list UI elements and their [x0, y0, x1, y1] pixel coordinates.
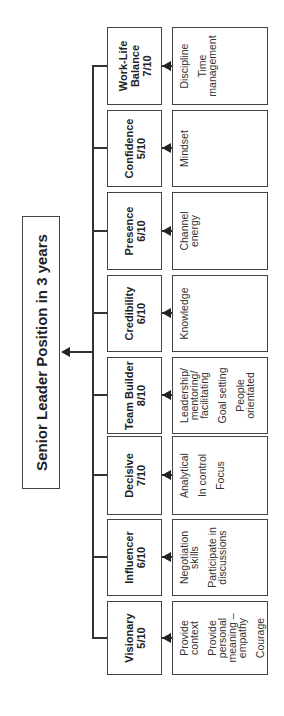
header-name: Work-Life Balance — [117, 41, 141, 92]
detail-box-presence: Channel energy — [172, 192, 268, 270]
detail-item: Provide context — [179, 620, 199, 656]
diagram-stage: Senior Leader Position in 3 years Vision… — [0, 0, 284, 716]
detail-box-influencer: Negotiation skillsParticipate in discuss… — [172, 519, 268, 596]
header-name: Presence — [123, 207, 135, 256]
header-box-presence: Presence6/10 — [107, 192, 162, 270]
detail-item: People orientated — [235, 372, 255, 419]
header-score: 6/10 — [135, 303, 147, 324]
arrowhead-up-icon — [162, 226, 171, 236]
detail-item: Mindset — [179, 130, 189, 167]
detail-box-work-life-balance: DisciplineTime management — [172, 27, 268, 105]
detail-item: Focus — [215, 461, 225, 490]
detail-item: Goal setting — [217, 367, 227, 423]
arrowhead-up-icon — [162, 391, 171, 401]
header-box-confidence: Confidence5/10 — [107, 110, 162, 187]
spine-stub-visionary — [93, 637, 107, 639]
detail-item: Negotiation skills — [179, 531, 199, 584]
header-box-influencer: Influencer6/10 — [107, 519, 162, 596]
detail-item: In control — [197, 454, 207, 497]
detail-box-credibility: Knowledge — [172, 275, 268, 352]
header-score: 7/10 — [135, 465, 147, 486]
header-name: Influencer — [123, 531, 135, 584]
detail-item: Channel energy — [179, 211, 199, 250]
arrowhead-up-icon — [162, 471, 171, 481]
header-score: 6/10 — [135, 547, 147, 568]
spine-stub-credibility — [93, 313, 107, 315]
header-score: 5/10 — [135, 627, 147, 648]
detail-box-team-builder: Leadership/ mentoring/ facilitatingGoal … — [172, 357, 268, 434]
detail-item: Provide personal meaning – empathy — [207, 613, 247, 662]
header-score: 5/10 — [135, 138, 147, 159]
detail-box-decisive: AnalyticalIn controlFocus — [172, 436, 268, 515]
spine-stub-decisive — [93, 475, 107, 477]
detail-item: Analytical — [179, 453, 189, 498]
header-box-decisive: Decisive7/10 — [107, 436, 162, 515]
spine-stub-presence — [93, 230, 107, 232]
goal-title: Senior Leader Position in 3 years — [33, 234, 50, 471]
detail-box-confidence: Mindset — [172, 110, 268, 187]
header-name: Credibility — [123, 287, 135, 341]
spine-stub-team-builder — [93, 395, 107, 397]
detail-item: Knowledge — [179, 288, 189, 340]
header-score: 6/10 — [135, 220, 147, 241]
header-box-team-builder: Team Builder8/10 — [107, 357, 162, 434]
spine-line — [92, 65, 94, 639]
arrowhead-up-icon — [162, 553, 171, 563]
arrowhead-up-icon — [162, 633, 171, 643]
header-box-credibility: Credibility6/10 — [107, 275, 162, 352]
detail-item: Courage — [255, 618, 265, 658]
title-connector-line — [68, 351, 93, 353]
header-name: Decisive — [123, 453, 135, 498]
arrowhead-up-icon — [162, 61, 171, 71]
goal-title-box: Senior Leader Position in 3 years — [22, 216, 60, 489]
spine-stub-influencer — [93, 557, 107, 559]
arrowhead-up-icon — [162, 309, 171, 319]
detail-item: Leadership/ mentoring/ facilitating — [179, 368, 209, 423]
header-box-work-life-balance: Work-Life Balance7/10 — [107, 27, 162, 105]
title-arrowhead-icon — [61, 347, 70, 357]
header-name: Confidence — [123, 119, 135, 179]
spine-stub-confidence — [93, 148, 107, 150]
detail-item: Time management — [197, 35, 217, 96]
header-name: Visionary — [123, 613, 135, 662]
header-name: Team Builder — [123, 361, 135, 430]
header-score: 7/10 — [141, 55, 153, 76]
header-box-visionary: Visionary5/10 — [107, 601, 162, 675]
detail-item: Discipline — [179, 44, 189, 89]
arrowhead-up-icon — [162, 144, 171, 154]
detail-box-visionary: Provide contextProvide personal meaning … — [172, 601, 268, 675]
spine-stub-work-life-balance — [93, 65, 107, 67]
detail-item: Participate in discussions — [207, 527, 227, 588]
header-score: 8/10 — [135, 385, 147, 406]
